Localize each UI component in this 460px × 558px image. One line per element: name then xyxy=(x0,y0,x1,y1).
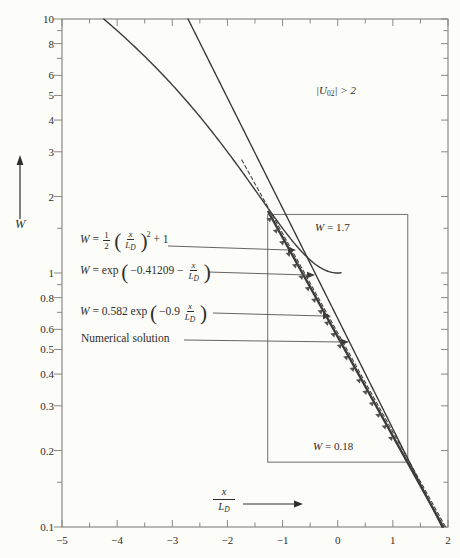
eq1-equals: = xyxy=(92,233,99,245)
equation-exponential-approx: W = 0.582 exp ( −0.9 xLD ) xyxy=(80,301,206,324)
open-paren: ( xyxy=(114,229,120,253)
eq3-constant: −0.9 xyxy=(159,305,180,317)
eq3-variable: W xyxy=(80,305,90,317)
y-tick-label: 0.2 xyxy=(40,445,54,457)
pointer-arrowhead-icon xyxy=(307,272,315,278)
pointer-line xyxy=(168,246,289,250)
eq1-tail: + 1 xyxy=(153,233,168,245)
y-tick-label: 8 xyxy=(49,38,55,50)
tooth-marker xyxy=(311,298,316,303)
curve-numerical-solution xyxy=(268,212,443,527)
tooth-marker xyxy=(350,367,355,372)
tooth-marker xyxy=(305,287,310,292)
eq1-half-fraction: 12 xyxy=(103,230,111,251)
tooth-marker xyxy=(266,218,271,223)
condition-annotation: |U02| > 2 xyxy=(316,84,356,98)
tooth-marker xyxy=(369,402,374,407)
x-tick-label: −4 xyxy=(111,534,123,546)
y-tick-label: 0.8 xyxy=(40,292,54,304)
x-tick-label: 1 xyxy=(390,534,396,546)
x-axis-arrowhead-icon xyxy=(294,501,303,508)
eq1-x-over-ld: xLD xyxy=(124,229,136,252)
x-tick-label: −1 xyxy=(277,534,289,546)
y-tick-label: 3 xyxy=(49,146,55,158)
label-numerical-solution: Numerical solution xyxy=(81,332,169,345)
tooth-marker xyxy=(362,390,367,395)
eq2-constant: −0.41209 − xyxy=(130,264,183,276)
open-paren: ( xyxy=(150,301,156,325)
eq3-equals-exp: = 0.582 exp xyxy=(92,305,147,317)
tooth-marker xyxy=(318,310,323,315)
pointer-line xyxy=(184,340,342,342)
x-tick-label: 0 xyxy=(335,534,341,546)
x-tick-label: 2 xyxy=(445,534,451,546)
tooth-marker xyxy=(324,321,329,326)
tooth-marker xyxy=(375,413,380,418)
tooth-marker xyxy=(382,425,387,430)
tooth-marker xyxy=(330,333,335,338)
x-tick-label: −3 xyxy=(166,534,178,546)
y-tick-label: 0.6 xyxy=(40,323,54,335)
y-tick-label: 0.5 xyxy=(40,343,54,355)
fraction-bar xyxy=(213,499,235,500)
w-axis-arrowhead-icon xyxy=(17,155,24,165)
eq2-variable: W xyxy=(80,264,90,276)
x-axis-label-numerator: x xyxy=(222,486,227,497)
numerical-solution-teeth xyxy=(266,218,393,441)
eq2-x-over-ld: xLD xyxy=(187,260,199,283)
y-tick-label: 1 xyxy=(49,267,55,279)
open-paren: ( xyxy=(121,260,127,284)
eq1-variable: W xyxy=(80,233,90,245)
x-tick-label: −5 xyxy=(56,534,68,546)
x-tick-label: −2 xyxy=(222,534,234,546)
x-axis-label: x LD xyxy=(213,486,235,514)
y-axis-label: W xyxy=(15,218,25,232)
y-tick-label: 6 xyxy=(49,69,55,81)
eq3-x-over-ld: xLD xyxy=(184,301,196,324)
y-tick-label: 0.1 xyxy=(40,521,54,533)
y-tick-label: 4 xyxy=(49,114,55,126)
tooth-marker xyxy=(388,436,393,441)
tooth-marker xyxy=(298,275,303,280)
plot-canvas: 1086543210.80.60.50.40.30.20.1−5−4−3−2−1… xyxy=(0,0,460,558)
pointer-line xyxy=(208,272,308,275)
close-paren: ) xyxy=(204,260,210,284)
equation-exponential-solution: W = exp ( −0.41209 − xLD ) xyxy=(80,260,210,283)
tooth-marker xyxy=(343,356,348,361)
eq2-equals-exp: = exp xyxy=(92,264,118,276)
box-label-w-bottom: W = 0.18 xyxy=(313,440,353,452)
x-axis-label-denominator: LD xyxy=(218,501,229,512)
y-tick-label: 5 xyxy=(49,89,55,101)
tooth-marker xyxy=(292,264,297,269)
y-tick-label: 10 xyxy=(43,13,55,25)
y-tick-label: 2 xyxy=(49,191,55,203)
eq1-exponent: 2 xyxy=(147,230,151,239)
y-tick-label: 0.3 xyxy=(40,400,54,412)
tooth-marker xyxy=(279,241,284,246)
tooth-marker xyxy=(273,229,278,234)
close-paren: ) xyxy=(200,301,206,325)
y-tick-label: 0.4 xyxy=(40,368,54,380)
tooth-marker xyxy=(356,379,361,384)
box-label-w-top: W = 1.7 xyxy=(315,221,350,233)
equation-parabolic-approx: W = 12 ( xLD )2 + 1 xyxy=(80,229,169,252)
pointer-line xyxy=(213,313,324,316)
figure-semilog-plot: 1086543210.80.60.50.40.30.20.1−5−4−3−2−1… xyxy=(0,0,460,558)
